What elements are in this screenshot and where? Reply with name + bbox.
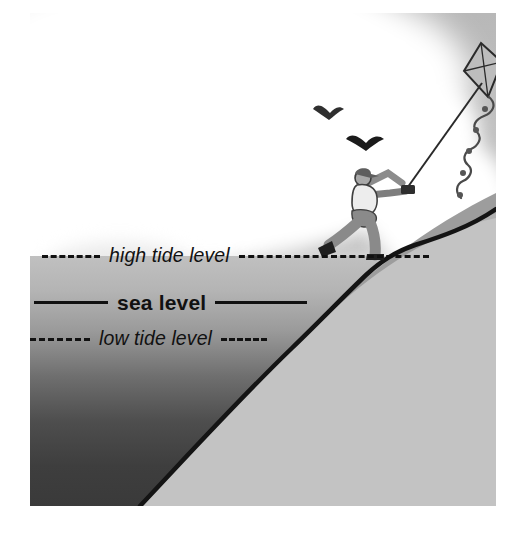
kite-tail-bows [457,106,488,198]
page-canvas: high tide level sea level low tide level… [0,0,518,535]
person-arm-rear [368,173,402,183]
sea-level-line-right [215,301,307,304]
person-leg-rear [329,223,357,245]
tide-diagram-illustration: high tide level sea level low tide level [30,13,496,506]
bird-icon [346,136,384,151]
low-tide-line-right [221,338,267,341]
high-tide-line-right [239,255,429,258]
kite [464,43,496,97]
low-tide-label: low tide level [90,329,221,349]
kite-tail [457,97,493,198]
low-tide-annotation: low tide level [30,328,267,350]
sea-level-annotation: sea level [34,291,307,313]
high-tide-annotation: high tide level [42,245,429,267]
sea-level-label: sea level [108,292,215,313]
low-tide-line-left [30,338,90,341]
bird-icon [313,106,344,120]
kite-reel [401,185,415,194]
sea-level-line-left [34,301,108,304]
high-tide-line-left [42,255,100,258]
high-tide-label: high tide level [100,246,239,266]
